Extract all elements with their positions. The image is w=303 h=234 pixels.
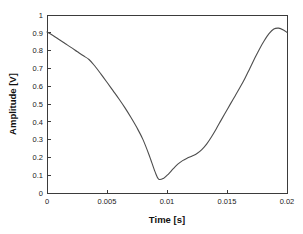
y-tick-label: 0.3 [33, 135, 43, 144]
y-tick-label: 0.8 [33, 46, 43, 55]
x-tick-label: 0 [45, 197, 49, 206]
y-tick-label: 0.5 [33, 100, 43, 109]
y-tick-label: 1 [39, 11, 43, 20]
x-tick-label: 0.015 [218, 197, 237, 206]
x-tick-label: 0.02 [280, 197, 295, 206]
y-tick-label: 0.9 [33, 29, 43, 38]
x-tick-label: 0.01 [160, 197, 175, 206]
x-tick-label: 0.005 [98, 197, 117, 206]
y-tick-label: 0 [39, 189, 43, 198]
y-tick-label: 0.1 [33, 171, 43, 180]
y-axis-title: Amplitude [V] [7, 73, 18, 135]
plot-area-background [47, 15, 287, 193]
y-tick-label: 0.7 [33, 64, 43, 73]
y-tick-label: 0.6 [33, 82, 43, 91]
x-axis-title: Time [s] [149, 214, 185, 225]
x-axis-tick-labels: 00.0050.010.0150.02 [45, 197, 294, 206]
y-tick-label: 0.2 [33, 153, 43, 162]
chart-figure: 00.10.20.30.40.50.60.70.80.91 00.0050.01… [0, 0, 303, 234]
y-tick-label: 0.4 [33, 118, 43, 127]
plot-svg: 00.10.20.30.40.50.60.70.80.91 00.0050.01… [0, 0, 303, 234]
y-axis-tick-labels: 00.10.20.30.40.50.60.70.80.91 [33, 11, 43, 198]
